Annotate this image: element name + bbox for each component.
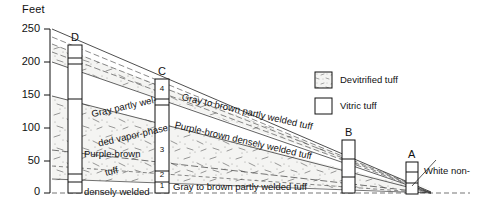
axis-tick-150: 150: [6, 89, 40, 101]
borehole-column-A: [406, 162, 418, 194]
legend-swatch-devitrified: [315, 72, 332, 88]
borehole-label-B: B: [345, 127, 352, 139]
axis-tick-50: 50: [6, 155, 40, 167]
cross-section-figure: Feet 250 200 150 100 50 0 D C B A 4 3 2 …: [0, 0, 482, 203]
axis-unit-label: Feet: [22, 4, 45, 16]
unit-label-line: Gray partly wel-: [90, 93, 162, 119]
legend-swatch-vitric: [315, 98, 332, 114]
legend-label-vitric: Vitric tuff: [340, 101, 377, 111]
borehole-label-C: C: [158, 66, 166, 78]
unit-label-line: densely welded: [84, 186, 150, 199]
unit-label-line: welded tuff: [424, 202, 470, 203]
borehole-label-A: A: [408, 149, 415, 161]
borehole-column-D: [68, 45, 82, 193]
unit-label-white-non-welded: White non- welded tuff: [424, 140, 470, 203]
unit-label-purple-brown-lithophysal: Purple-brown densely welded lithophysal …: [84, 122, 150, 203]
axis-tick-0: 0: [6, 186, 40, 198]
axis-tick-200: 200: [6, 56, 40, 68]
unit-label-line: Purple-brown: [84, 148, 150, 161]
axis-tick-100: 100: [6, 122, 40, 134]
legend-swatches: [315, 72, 332, 114]
borehole-column-B: [342, 140, 355, 193]
unit-label-gray-to-brown-partly-welded-basal: Gray to brown partly welded tuff: [173, 182, 307, 192]
unit-label-line: White non-: [424, 165, 470, 177]
borehole-label-D: D: [71, 32, 79, 44]
y-axis: [44, 29, 50, 193]
axis-tick-250: 250: [6, 23, 40, 35]
legend-label-devitrified: Devitrified tuff: [340, 75, 398, 85]
